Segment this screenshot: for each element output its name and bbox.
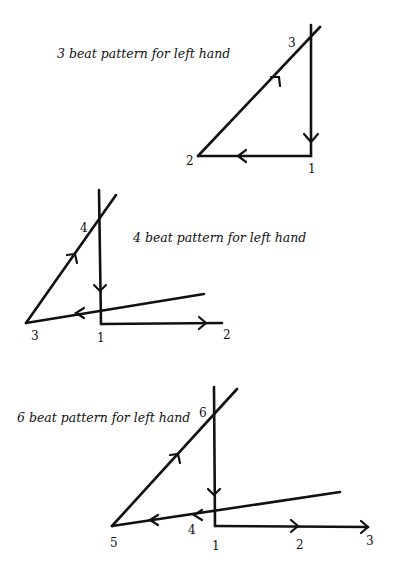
stroke-to-beat-2-and-3	[215, 526, 368, 527]
beat-label: 3	[288, 36, 296, 50]
six-beat-pattern: 6 beat pattern for left hand 1 2 3 4 5 6	[17, 387, 374, 553]
beat-label: 2	[223, 328, 231, 342]
beat-label: 4	[80, 221, 88, 235]
beat-label: 5	[110, 536, 118, 550]
four-beat-pattern: 4 beat pattern for left hand 1 2 3 4	[26, 190, 306, 345]
beat-label: 1	[97, 331, 105, 345]
beat-label: 3	[366, 534, 374, 548]
arrow-left-icon	[194, 510, 202, 520]
beat-label: 2	[186, 154, 194, 168]
downbeat-stroke	[214, 387, 215, 526]
beat-label: 2	[296, 538, 304, 552]
beat-label: 6	[199, 406, 207, 420]
caption-four-beat: 4 beat pattern for left hand	[132, 230, 306, 245]
beat-label: 3	[31, 329, 39, 343]
caption-three-beat: 3 beat pattern for left hand	[57, 46, 230, 61]
caption-six-beat: 6 beat pattern for left hand	[17, 410, 190, 425]
beat-label: 4	[188, 523, 196, 537]
downbeat-stroke	[99, 190, 101, 324]
stroke-to-beat-3	[26, 294, 204, 323]
three-beat-pattern: 3 beat pattern for left hand 1 2 3	[57, 25, 320, 176]
beat-pattern-diagrams: 3 beat pattern for left hand 1 2 3 4 bea…	[0, 0, 394, 572]
stroke-to-beat-4-and-5	[112, 492, 340, 526]
beat-label: 1	[212, 539, 220, 553]
stroke-to-beat-4	[26, 195, 116, 323]
beat-label: 1	[308, 162, 316, 176]
